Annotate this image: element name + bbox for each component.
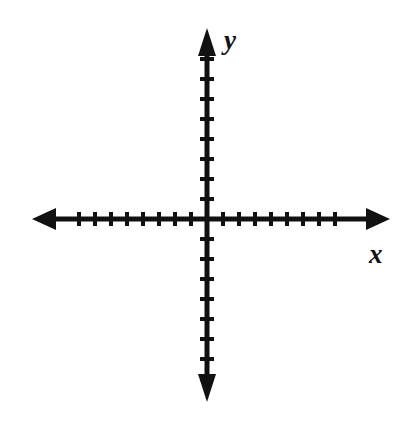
y-axis-label: y [224,27,236,54]
coordinate-axes-graphic [0,0,413,424]
x-axis-arrow-right [366,208,390,230]
x-axis-arrow-left [32,208,56,230]
coordinate-plane-figure: y x [0,0,413,424]
y-axis-arrow-up [198,28,216,56]
x-axis-label: x [369,241,383,268]
y-axis-arrow-down [198,374,216,402]
